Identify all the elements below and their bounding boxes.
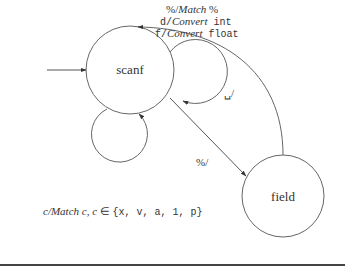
- self-loop-match-char: [91, 109, 147, 162]
- label-percent: %/: [196, 156, 208, 168]
- state-field-label: field: [271, 189, 295, 205]
- label-action: Convert: [172, 15, 207, 27]
- label-member: ∈: [97, 205, 113, 217]
- label-f-convert-float: f/Convert float: [155, 27, 238, 41]
- label-space: ␣/: [224, 87, 234, 99]
- self-loop-space: [170, 39, 227, 103]
- label-input: %/: [166, 3, 178, 15]
- transition-field-to-scanf: [138, 27, 283, 155]
- label-action: Match: [178, 3, 206, 15]
- label-arg: %: [206, 3, 218, 15]
- label-match-char: c/Match c, c ∈ {x, v, a, 1, p}: [43, 205, 203, 219]
- horizontal-rule: [0, 264, 345, 266]
- label-input: c/: [43, 205, 51, 217]
- label-arg: float: [202, 29, 238, 40]
- label-input: f/: [155, 29, 167, 40]
- state-scanf-label: scanf: [116, 62, 143, 78]
- label-action: Match c, c: [51, 205, 97, 217]
- label-percent-match: %/Match %: [166, 3, 218, 15]
- label-action: Convert: [167, 27, 202, 39]
- label-set: {x, v, a, 1, p}: [113, 207, 203, 218]
